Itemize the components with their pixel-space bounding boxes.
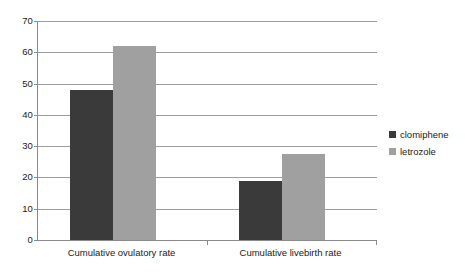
y-tick-label: 50 <box>3 79 33 89</box>
plot-area <box>37 21 377 241</box>
y-axis: 70 60 50 40 30 20 10 0 <box>0 21 33 240</box>
bar-letrozole-livebirth <box>282 154 325 240</box>
legend: clomiphene letrozole <box>389 126 463 160</box>
y-tickmark-0 <box>34 240 38 241</box>
legend-item-clomiphene: clomiphene <box>389 126 463 143</box>
gridline-50 <box>38 84 377 85</box>
legend-item-letrozole: letrozole <box>389 143 463 160</box>
category-separator <box>207 240 208 245</box>
legend-label: letrozole <box>400 147 436 157</box>
legend-label: clomiphene <box>400 130 449 140</box>
y-tickmark-70 <box>34 21 38 22</box>
gridline-60 <box>38 52 377 53</box>
bar-letrozole-ovulatory <box>113 46 156 240</box>
y-tick-label: 10 <box>3 204 33 214</box>
y-tick-label: 60 <box>3 48 33 58</box>
x-axis-label-livebirth: Cumulative livebirth rate <box>206 248 375 258</box>
y-tick-label: 20 <box>3 173 33 183</box>
y-tickmark-10 <box>34 209 38 210</box>
category-separator <box>376 240 377 245</box>
legend-swatch-icon <box>389 148 396 155</box>
legend-swatch-icon <box>389 131 396 138</box>
y-tick-label: 30 <box>3 141 33 151</box>
y-tick-label: 70 <box>3 16 33 26</box>
y-tick-label: 0 <box>3 235 33 245</box>
gridline-70 <box>38 21 377 22</box>
y-tick-label: 40 <box>3 110 33 120</box>
bar-chart: 70 60 50 40 30 20 10 0 Cumulative ovulat… <box>0 0 465 272</box>
x-axis-label-ovulatory: Cumulative ovulatory rate <box>37 248 206 258</box>
bar-clomiphene-livebirth <box>239 181 282 240</box>
y-tickmark-40 <box>34 115 38 116</box>
y-tickmark-60 <box>34 52 38 53</box>
y-tickmark-20 <box>34 177 38 178</box>
bar-clomiphene-ovulatory <box>70 90 113 240</box>
y-tickmark-30 <box>34 146 38 147</box>
y-tickmark-50 <box>34 84 38 85</box>
